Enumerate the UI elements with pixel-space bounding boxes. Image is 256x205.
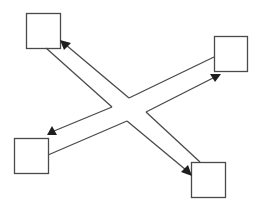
edges — [46, 45, 215, 170]
node-top-right — [215, 37, 248, 72]
arrowheads — [47, 40, 221, 176]
edge-top-left-outer — [46, 48, 112, 107]
nodes — [15, 14, 248, 198]
node-bottom-left — [15, 139, 49, 174]
edge-bottom-right-outer — [146, 112, 200, 162]
crossing-arrows-diagram — [0, 0, 256, 205]
node-bottom-right — [192, 163, 226, 198]
edge-top-left-inner — [66, 45, 129, 98]
edge-bottom-right-inner — [127, 121, 186, 170]
edge-top-right-inner — [146, 77, 215, 112]
edge-bottom-left-inner — [54, 107, 112, 131]
node-top-left — [27, 14, 61, 49]
edge-top-right-outer — [129, 57, 214, 98]
edge-bottom-left-outer — [48, 121, 127, 155]
